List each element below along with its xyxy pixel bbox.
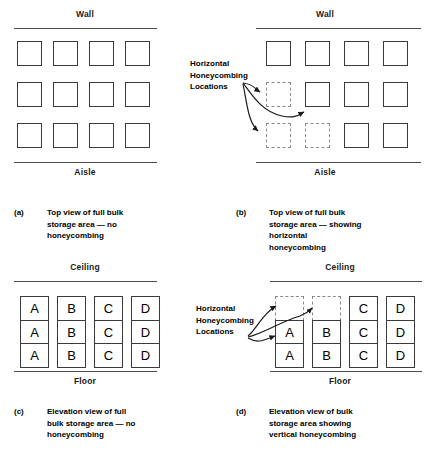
panel-b-wall-line [256, 28, 421, 29]
panel-d-ceiling-label: Ceiling [300, 262, 380, 272]
panel-d-floor-label: Floor [300, 376, 380, 386]
panel-a-caption-text: Top view of full bulk storage area — no … [47, 207, 134, 242]
pallet-square [383, 123, 408, 148]
storage-cell: C [349, 320, 378, 345]
pallet-square-empty [266, 123, 291, 148]
pallet-square [17, 82, 42, 107]
panel-a-wall-line [14, 28, 157, 29]
panel-a-caption: (a) Top view of full bulk storage area —… [14, 207, 134, 242]
panel-d-callout-label: Horizontal Honeycombing Locations [196, 303, 254, 338]
panel-a-tag: (a) [14, 207, 24, 219]
pallet-square-empty [305, 123, 330, 148]
panel-d-tag: (d) [236, 406, 246, 418]
storage-cell-empty [275, 296, 304, 321]
storage-cell: B [57, 320, 86, 345]
elevation-column-b: B B [312, 296, 341, 368]
panel-b-tag: (b) [236, 207, 246, 219]
elevation-column-d: D D D [131, 296, 160, 368]
pallet-square [383, 41, 408, 66]
storage-cell: A [20, 296, 49, 321]
pallet-square [266, 41, 291, 66]
pallet-square [344, 82, 369, 107]
storage-cell: A [20, 343, 49, 368]
callout-line-1: Horizontal [190, 58, 248, 70]
elevation-column-c: C C C [349, 296, 378, 368]
pallet-square [17, 123, 42, 148]
panel-b-wall-label: Wall [285, 9, 365, 19]
pallet-square [305, 41, 330, 66]
panel-d-ceiling-line [270, 281, 422, 282]
callout-line-2: Honeycombing [196, 315, 254, 327]
pallet-square [125, 123, 150, 148]
storage-cell: B [312, 320, 341, 345]
panel-c-caption-text: Elevation view of full bulk storage area… [47, 406, 139, 441]
storage-cell: C [349, 296, 378, 321]
panel-c-tag: (c) [14, 406, 24, 418]
pallet-square [89, 82, 114, 107]
storage-cell: D [386, 343, 415, 368]
storage-cell: C [94, 320, 123, 345]
panel-b-aisle-line [256, 162, 421, 163]
callout-line-2: Honeycombing [190, 70, 248, 82]
panel-a-wall-label: Wall [45, 9, 125, 19]
pallet-square [305, 82, 330, 107]
elevation-column-d: D D D [386, 296, 415, 368]
callout-line-1: Horizontal [196, 303, 254, 315]
storage-cell: A [275, 343, 304, 368]
storage-cell: B [57, 343, 86, 368]
storage-cell: A [275, 320, 304, 345]
storage-cell: C [94, 296, 123, 321]
pallet-square [89, 41, 114, 66]
storage-cell: B [312, 343, 341, 368]
panel-d-caption-text: Elevation view of bulk storage area show… [269, 406, 371, 441]
storage-cell: D [131, 320, 160, 345]
elevation-column-a: A A A [20, 296, 49, 368]
pallet-square [53, 123, 78, 148]
storage-cell: D [386, 296, 415, 321]
storage-cell: D [386, 320, 415, 345]
storage-cell: D [131, 296, 160, 321]
panel-d-floor-line [270, 371, 422, 372]
storage-cell-empty [312, 296, 341, 321]
pallet-square [344, 41, 369, 66]
panel-c-caption: (c) Elevation view of full bulk storage … [14, 406, 139, 441]
storage-cell: D [131, 343, 160, 368]
panel-c-floor-line [14, 371, 157, 372]
pallet-square [17, 41, 42, 66]
panel-c-ceiling-line [14, 281, 157, 282]
panel-c-ceiling-label: Ceiling [45, 262, 125, 272]
storage-cell: C [94, 343, 123, 368]
panel-d-caption: (d) Elevation view of bulk storage area … [236, 406, 371, 441]
panel-a-aisle-label: Aisle [45, 167, 125, 177]
pallet-square [125, 82, 150, 107]
pallet-square-empty [266, 82, 291, 107]
pallet-square [125, 41, 150, 66]
elevation-column-c: C C C [94, 296, 123, 368]
storage-cell: B [57, 296, 86, 321]
panel-b-caption-text: Top view of full bulk storage area — sho… [269, 207, 366, 253]
pallet-square [53, 82, 78, 107]
storage-cell: C [349, 343, 378, 368]
panel-a-aisle-line [14, 162, 157, 163]
storage-cell: A [20, 320, 49, 345]
panel-b-caption: (b) Top view of full bulk storage area —… [236, 207, 366, 253]
panel-b-callout-label: Horizontal Honeycombing Locations [190, 58, 248, 93]
elevation-column-a: A A [275, 296, 304, 368]
elevation-column-b: B B B [57, 296, 86, 368]
pallet-square [383, 82, 408, 107]
pallet-square [344, 123, 369, 148]
panel-b-aisle-label: Aisle [285, 167, 365, 177]
callout-line-3: Locations [190, 81, 248, 93]
pallet-square [89, 123, 114, 148]
panel-c-floor-label: Floor [45, 376, 125, 386]
callout-line-3: Locations [196, 326, 254, 338]
pallet-square [53, 41, 78, 66]
